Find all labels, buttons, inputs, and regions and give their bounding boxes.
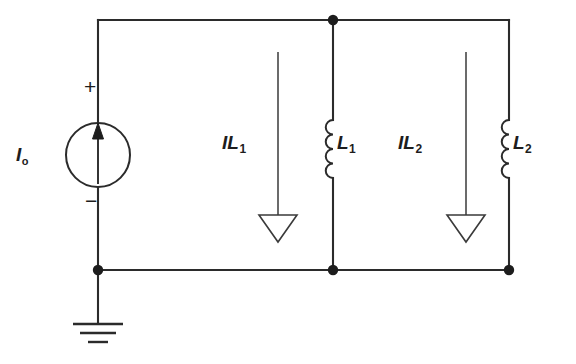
label-current-l2-symbol: IL bbox=[398, 132, 415, 153]
current-source-symbol bbox=[66, 123, 130, 187]
circuit-diagram-page: Io IL1 L1 IL2 L2 + − bbox=[0, 0, 576, 364]
current-arrow-il1 bbox=[259, 52, 297, 242]
label-current-l2-subscript: 2 bbox=[415, 142, 422, 156]
inductor-l2-coils bbox=[502, 120, 509, 178]
label-inductor-l2: L2 bbox=[513, 133, 531, 152]
label-current-l1-subscript: 1 bbox=[239, 142, 246, 156]
inductor-l1-coils bbox=[326, 120, 333, 178]
junction-dot-top-mid bbox=[328, 15, 338, 25]
label-inductor-l2-subscript: 2 bbox=[525, 142, 532, 156]
inductor-l1-symbol bbox=[326, 120, 333, 178]
current-arrow-il1-head bbox=[259, 215, 297, 242]
label-current-l1-symbol: IL bbox=[222, 132, 239, 153]
label-inductor-l2-symbol: L bbox=[513, 132, 525, 153]
label-inductor-l1-symbol: L bbox=[337, 132, 349, 153]
label-polarity-positive: + bbox=[84, 76, 96, 97]
label-current-l1: IL1 bbox=[222, 133, 246, 152]
label-source-current: Io bbox=[16, 145, 28, 164]
current-arrow-il2 bbox=[447, 52, 485, 242]
label-polarity-negative: − bbox=[85, 190, 97, 211]
junction-dot-bottom-left bbox=[93, 265, 103, 275]
circuit-schematic-canvas bbox=[0, 0, 576, 364]
junction-dot-bottom-mid bbox=[328, 265, 338, 275]
current-arrow-il2-head bbox=[447, 215, 485, 242]
label-current-l2: IL2 bbox=[398, 133, 422, 152]
label-source-current-subscript: o bbox=[22, 155, 29, 167]
ground-symbol bbox=[73, 270, 123, 342]
wiring-group bbox=[98, 20, 509, 270]
junction-dot-bottom-right bbox=[504, 265, 514, 275]
label-inductor-l1: L1 bbox=[337, 133, 355, 152]
label-inductor-l1-subscript: 1 bbox=[349, 142, 356, 156]
junction-dots-group bbox=[93, 15, 514, 275]
label-source-current-symbol: I bbox=[16, 144, 21, 165]
inductor-l2-symbol bbox=[502, 120, 509, 178]
